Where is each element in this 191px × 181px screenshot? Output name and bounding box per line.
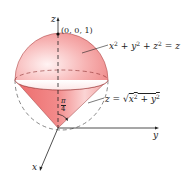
ice-cream-cone-diagram: z (0, 0, 1) x2 + y2 + z2 = z z = √x2 + y… <box>0 0 191 181</box>
z-axis-label: z <box>51 15 56 24</box>
diagram-canvas <box>0 0 191 181</box>
y-axis-label: y <box>153 131 158 140</box>
sphere-equation-label: x2 + y2 + z2 = z <box>109 41 180 51</box>
x-axis <box>41 128 58 168</box>
x-axis-label: x <box>32 163 37 172</box>
angle-numerator: π <box>61 97 66 105</box>
angle-label: π 4 <box>61 98 66 113</box>
z-axis-arrow <box>57 17 60 21</box>
point-label: (0, 0, 1) <box>61 27 93 35</box>
cone-leader <box>88 98 104 103</box>
angle-denominator: 4 <box>61 105 66 113</box>
top-point <box>56 32 59 35</box>
cone-equation-label: z = √x2 + y2 <box>105 94 160 104</box>
x-axis-arrow <box>40 167 43 172</box>
